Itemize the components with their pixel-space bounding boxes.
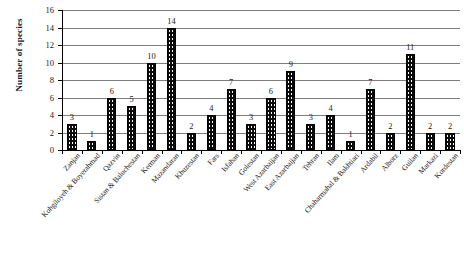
bar-value-label: 3: [309, 114, 313, 122]
bar: [246, 10, 255, 150]
bar-rect: [266, 98, 275, 151]
bar: [266, 10, 275, 150]
bar-rect: [87, 141, 96, 150]
bar-rect: [326, 115, 335, 150]
bar-value-label: 7: [368, 79, 372, 87]
x-axis-tick-labels: ZanjanKohgiloyeh & BoyerahmadQazvinSista…: [0, 152, 464, 252]
bar-rect: [426, 133, 435, 151]
bar-value-label: 1: [90, 131, 94, 139]
bar-value-label: 2: [189, 123, 193, 131]
bar-rect: [67, 124, 76, 150]
bar: [87, 10, 96, 150]
bar-value-label: 6: [110, 88, 114, 96]
y-tick-label-12: 12: [45, 41, 54, 49]
bar-value-label: 4: [209, 105, 213, 113]
y-tick-label-16: 16: [45, 6, 54, 14]
bar-rect: [346, 141, 355, 150]
x-tick-label: Fars: [207, 152, 222, 167]
bar-rect: [445, 133, 454, 151]
bar-rect: [386, 133, 395, 151]
bar-value-label: 7: [229, 79, 233, 87]
x-tick-label: Ardabil: [359, 152, 380, 174]
bar: [406, 10, 415, 150]
bar-rect: [147, 63, 156, 151]
bar-value-label: 4: [329, 105, 333, 113]
bar: [147, 10, 156, 150]
y-axis-tick-labels: 0246810121416: [0, 10, 62, 150]
bar-rect: [127, 106, 136, 150]
bar-value-label: 11: [406, 44, 414, 52]
bar-rect: [187, 133, 196, 151]
bar-rect: [286, 71, 295, 150]
bar-value-label: 2: [388, 123, 392, 131]
bar: [167, 10, 176, 150]
x-tick-label: Ilam: [325, 152, 340, 168]
bar-rect: [107, 98, 116, 151]
bar: [346, 10, 355, 150]
bar: [306, 10, 315, 150]
bar-value-label: 2: [428, 123, 432, 131]
bar-value-label: 3: [70, 114, 74, 122]
bar-rect: [167, 28, 176, 151]
bar-rect: [246, 124, 255, 150]
y-tick-label-14: 14: [45, 24, 54, 32]
bar-value-label: 14: [167, 18, 175, 26]
bar-rect: [227, 89, 236, 150]
bars-layer: 31651014247369341721122: [62, 10, 460, 150]
bar: [207, 10, 216, 150]
bar-value-label: 6: [269, 88, 273, 96]
y-tick-label-8: 8: [50, 76, 54, 84]
bar-value-label: 5: [130, 96, 134, 104]
y-tick-label-4: 4: [50, 111, 54, 119]
y-tick-label-10: 10: [45, 59, 54, 67]
x-tick-label: Alborz: [380, 152, 400, 173]
bar-chart: Number of species 0246810121416 31651014…: [0, 0, 464, 253]
x-tick-label: Tehran: [301, 152, 321, 173]
bar-value-label: 3: [249, 114, 253, 122]
bar: [326, 10, 335, 150]
bar-value-label: 9: [289, 61, 293, 69]
y-tick-label-6: 6: [50, 94, 54, 102]
bar-rect: [406, 54, 415, 150]
y-tick-label-2: 2: [50, 129, 54, 137]
bar: [127, 10, 136, 150]
bar-rect: [306, 124, 315, 150]
bar: [286, 10, 295, 150]
bar: [67, 10, 76, 150]
bar-value-label: 2: [448, 123, 452, 131]
bar: [107, 10, 116, 150]
bar-value-label: 1: [348, 131, 352, 139]
bar-rect: [366, 89, 375, 150]
plot-area: 31651014247369341721122: [62, 10, 460, 150]
bar-value-label: 10: [147, 53, 155, 61]
bar-rect: [207, 115, 216, 150]
